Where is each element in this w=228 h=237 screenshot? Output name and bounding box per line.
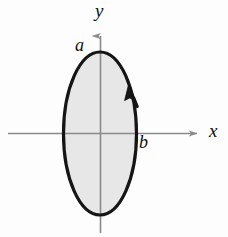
y-axis-label: y [95,1,103,20]
figure-graphic [0,0,228,237]
semi-axis-b-label: b [139,133,148,151]
semi-axis-a-label: a [75,36,84,54]
x-axis-label: x [209,121,217,140]
figure-canvas: y x a b [0,0,228,237]
